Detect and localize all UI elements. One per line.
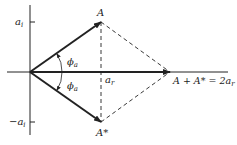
label-phi-bottom: ϕa (67, 81, 78, 93)
phasor-diagram: A A* A + A* = 2ar ai −ai ar ϕa ϕa (0, 0, 237, 145)
label-ar: ar (105, 75, 114, 87)
dashed-parallelogram-upper (101, 22, 170, 72)
label-sum: A + A* = 2ar (173, 76, 235, 88)
angle-arc-bottom (57, 72, 62, 90)
angle-arc-top (57, 54, 62, 72)
label-phi-top: ϕa (67, 57, 78, 69)
label-A: A (97, 8, 104, 18)
diagram-canvas (0, 0, 237, 145)
label-ai-bottom: −ai (9, 117, 26, 129)
label-ai-top: ai (15, 17, 23, 29)
vector-A-conj (30, 72, 101, 122)
vector-A (30, 22, 101, 72)
label-A-conj: A* (96, 128, 108, 138)
